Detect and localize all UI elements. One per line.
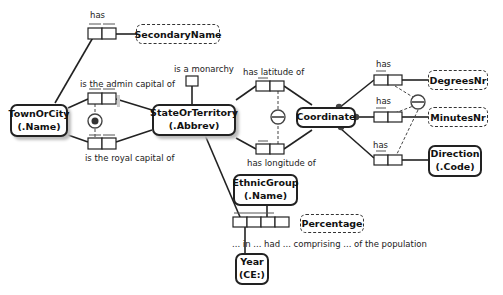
entity-label: Year — [240, 256, 264, 269]
label-monarchy: is a monarchy — [174, 65, 234, 74]
diagram-canvas — [0, 0, 503, 295]
entity-label: TownOrCity — [9, 108, 70, 121]
value-secondary-name[interactable]: SecondaryName — [136, 24, 220, 44]
entity-refmode: (.Code) — [435, 161, 474, 174]
value-minutes-nr[interactable]: MinutesNr — [428, 107, 488, 127]
label-admin-capital: is the admin capital of — [80, 80, 175, 89]
label-has-degrees: has — [376, 60, 391, 69]
entity-refmode: (.Abbrev) — [169, 120, 220, 133]
entity-refmode: (CE:) — [239, 269, 265, 282]
label-latitude: has latitude of — [243, 68, 304, 77]
entity-label: StateOrTerritory — [150, 107, 238, 120]
label-has-minutes: has — [376, 97, 391, 106]
entity-label: EthnicGroup — [232, 177, 298, 190]
entity-coordinate[interactable]: Coordinate — [296, 107, 356, 128]
entity-direction[interactable]: Direction (.Code) — [428, 145, 482, 177]
entity-town-or-city[interactable]: TownOrCity (.Name) — [10, 104, 68, 137]
entity-label: Coordinate — [297, 111, 356, 124]
label-ethnic-reading: ... in ... had ... comprising ... of the… — [232, 240, 427, 249]
entity-state-or-territory[interactable]: StateOrTerritory (.Abbrev) — [152, 104, 236, 136]
value-percentage[interactable]: Percentage — [300, 214, 364, 233]
entity-ethnic-group[interactable]: EthnicGroup (.Name) — [233, 174, 298, 206]
label-has-secondary: has — [90, 11, 105, 20]
entity-year[interactable]: Year (CE:) — [235, 253, 269, 285]
value-degrees-nr[interactable]: DegreesNr — [428, 70, 488, 90]
entity-refmode: (.Name) — [18, 121, 61, 134]
label-royal-capital: is the royal capital of — [85, 154, 174, 163]
label-longitude: has longitude of — [247, 159, 316, 168]
entity-label: Direction — [431, 148, 480, 161]
label-has-direction: has — [373, 141, 388, 150]
entity-refmode: (.Name) — [244, 190, 287, 203]
